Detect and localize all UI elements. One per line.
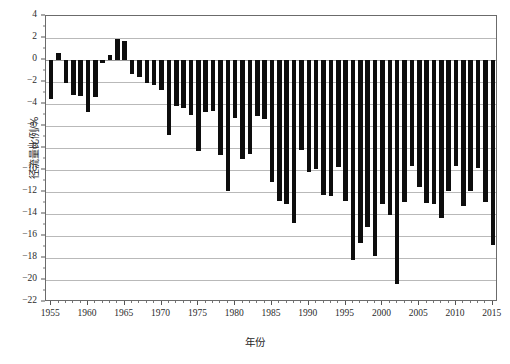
x-tick-minor <box>80 301 81 303</box>
bar <box>130 60 135 74</box>
x-tick-label: 2015 <box>482 309 501 319</box>
x-tick-mark <box>492 301 493 305</box>
x-tick-minor <box>300 301 301 303</box>
x-tick-label: 2010 <box>446 309 465 319</box>
x-tick-minor <box>389 301 390 303</box>
x-tick-mark <box>124 301 125 305</box>
x-tick-label: 2000 <box>372 309 391 319</box>
x-tick-minor <box>264 301 265 303</box>
bar <box>491 60 496 245</box>
x-tick-minor <box>175 301 176 303</box>
x-tick-minor <box>352 301 353 303</box>
y-tick-label: −2 <box>27 76 37 86</box>
x-tick-minor <box>440 301 441 303</box>
bar <box>145 60 150 83</box>
bar <box>189 60 194 115</box>
bar <box>218 60 223 155</box>
x-tick-minor <box>249 301 250 303</box>
bar <box>152 60 157 85</box>
x-tick-minor <box>131 301 132 303</box>
x-tick-minor <box>359 301 360 303</box>
bar <box>373 60 378 256</box>
bar <box>446 60 451 191</box>
x-tick-minor <box>426 301 427 303</box>
bar <box>476 60 481 168</box>
x-tick-minor <box>286 301 287 303</box>
bar <box>454 60 459 166</box>
bar <box>174 60 179 106</box>
y-tick-label: −4 <box>27 98 37 108</box>
bar <box>380 60 385 204</box>
x-tick-minor <box>227 301 228 303</box>
y-axis: 420−2−4−6−8−10−12−14−16−18−20−22 <box>0 15 45 301</box>
bar <box>211 60 216 111</box>
bar <box>336 60 341 167</box>
x-tick-minor <box>374 301 375 303</box>
x-tick-minor <box>153 301 154 303</box>
x-tick-label: 1960 <box>77 309 96 319</box>
bar <box>56 53 61 60</box>
bar <box>358 60 363 243</box>
x-tick-label: 1990 <box>298 309 317 319</box>
bar <box>108 55 113 61</box>
x-tick-label: 1955 <box>41 309 60 319</box>
x-tick-label: 1995 <box>335 309 354 319</box>
bar <box>432 60 437 204</box>
x-tick-minor <box>168 301 169 303</box>
x-tick-minor <box>330 301 331 303</box>
bar <box>417 60 422 187</box>
y-tick-label: −14 <box>22 208 37 218</box>
x-tick-minor <box>116 301 117 303</box>
x-tick-mark <box>345 301 346 305</box>
x-tick-mark <box>271 301 272 305</box>
y-tick-label: −16 <box>22 230 37 240</box>
bar <box>100 60 105 63</box>
bar <box>270 60 275 182</box>
x-tick-minor <box>337 301 338 303</box>
bar <box>255 60 260 116</box>
y-tick-label: −18 <box>22 252 37 262</box>
bar <box>248 60 253 154</box>
x-tick-minor <box>278 301 279 303</box>
bar <box>365 60 370 227</box>
bar <box>329 60 334 196</box>
y-tick-label: −20 <box>22 274 37 284</box>
x-tick-mark <box>455 301 456 305</box>
x-tick-mark <box>87 301 88 305</box>
x-tick-minor <box>484 301 485 303</box>
y-tick-label: −6 <box>27 120 37 130</box>
x-tick-minor <box>293 301 294 303</box>
x-tick-label: 2005 <box>409 309 428 319</box>
x-tick-label: 1980 <box>225 309 244 319</box>
x-axis: 1955196019651970197519801985199019952000… <box>45 301 497 321</box>
x-tick-minor <box>190 301 191 303</box>
x-tick-label: 1970 <box>151 309 170 319</box>
bar <box>262 60 267 119</box>
x-axis-title: 年份 <box>0 334 510 349</box>
bar <box>483 60 488 202</box>
bar <box>277 60 282 201</box>
bar <box>351 60 356 260</box>
x-tick-minor <box>58 301 59 303</box>
x-tick-minor <box>109 301 110 303</box>
bar <box>196 60 201 151</box>
x-tick-minor <box>470 301 471 303</box>
bar <box>395 60 400 284</box>
x-tick-mark <box>234 301 235 305</box>
x-tick-mark <box>50 301 51 305</box>
x-tick-minor <box>102 301 103 303</box>
bar <box>299 60 304 150</box>
bar <box>240 60 245 159</box>
bar <box>122 41 127 60</box>
bar <box>439 60 444 218</box>
bar <box>203 60 208 112</box>
y-tick-label: −12 <box>22 186 37 196</box>
bar <box>388 60 393 215</box>
chart-figure: 径流量比例/% 420−2−4−6−8−10−12−14−16−18−20−22… <box>0 0 510 364</box>
y-tick-label: −10 <box>22 164 37 174</box>
x-tick-minor <box>323 301 324 303</box>
bars-layer <box>46 16 496 300</box>
bar <box>292 60 297 223</box>
y-tick-label: 0 <box>32 54 37 64</box>
bar <box>402 60 407 202</box>
